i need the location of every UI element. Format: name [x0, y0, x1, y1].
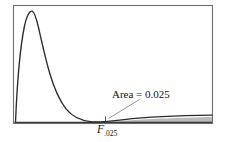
figure-container: Area = 0.025 F.025 [0, 0, 225, 142]
distribution-figure: Area = 0.025 F.025 [0, 0, 225, 142]
critical-value-label: F.025 [96, 123, 117, 138]
area-annotation-label: Area = 0.025 [112, 88, 170, 100]
figure-frame [14, 6, 213, 124]
critical-value-subscript: .025 [104, 129, 117, 138]
